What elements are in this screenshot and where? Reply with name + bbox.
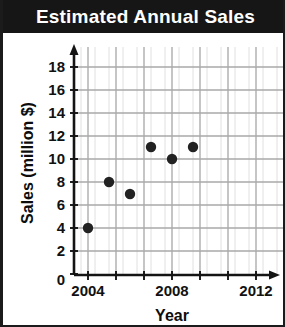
plot-area: 18 16 14 12 10 8 6 4 2 0 2004 2008 2012 bbox=[3, 33, 285, 327]
data-point bbox=[104, 177, 114, 187]
y-origin-label: 0 bbox=[57, 271, 65, 288]
x-tick-label: 2004 bbox=[71, 282, 105, 299]
data-point bbox=[83, 223, 93, 233]
chart-title: Estimated Annual Sales bbox=[36, 6, 255, 28]
data-point bbox=[167, 154, 177, 164]
chart-title-bar: Estimated Annual Sales bbox=[3, 0, 285, 33]
vertical-gridlines bbox=[88, 47, 284, 275]
data-point bbox=[125, 189, 135, 199]
y-axis bbox=[70, 44, 79, 275]
data-point bbox=[146, 142, 156, 152]
y-axis-title: Sales (million $) bbox=[19, 102, 36, 224]
y-tick-label: 8 bbox=[57, 173, 65, 190]
horizontal-gridlines bbox=[74, 67, 285, 251]
x-tick-label: 2008 bbox=[155, 282, 188, 299]
x-axis-title: Year bbox=[155, 307, 189, 324]
data-point bbox=[188, 142, 198, 152]
y-tick-label: 4 bbox=[57, 219, 66, 236]
x-tick-label: 2012 bbox=[239, 282, 272, 299]
scatter-plot-svg: 18 16 14 12 10 8 6 4 2 0 2004 2008 2012 bbox=[3, 33, 285, 327]
minor-gridlines bbox=[81, 47, 277, 275]
y-tick-label: 12 bbox=[48, 127, 65, 144]
y-tick-label: 10 bbox=[48, 150, 65, 167]
y-tick-label: 18 bbox=[48, 58, 65, 75]
chart-figure: Estimated Annual Sales bbox=[0, 0, 285, 327]
y-tick-label: 2 bbox=[57, 242, 65, 259]
y-tick-label: 14 bbox=[48, 104, 65, 121]
data-points bbox=[83, 142, 198, 233]
x-tick-labels: 2004 2008 2012 bbox=[71, 282, 272, 299]
y-tick-labels: 18 16 14 12 10 8 6 4 2 0 bbox=[48, 58, 65, 288]
y-tick-label: 16 bbox=[48, 81, 65, 98]
y-tick-label: 6 bbox=[57, 196, 65, 213]
